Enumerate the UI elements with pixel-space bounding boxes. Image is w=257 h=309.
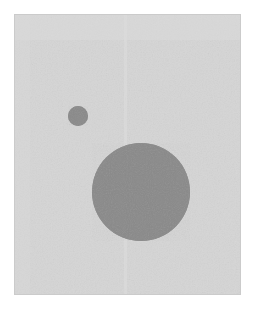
panel-left-falloff [14, 14, 30, 295]
small-circle-grain [68, 106, 88, 126]
figure-root: gray background panel small gray circle … [0, 0, 257, 309]
figure-canvas [0, 0, 257, 309]
panel-top-falloff [14, 14, 241, 40]
large-circle-grain [92, 143, 190, 241]
